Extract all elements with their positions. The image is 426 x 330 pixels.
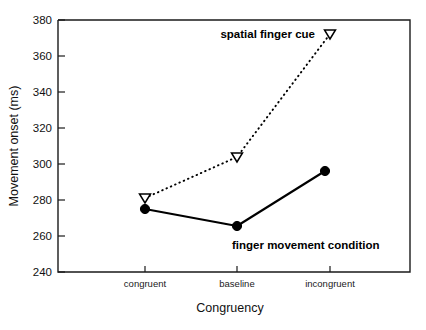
y-axis-tick-labels: 380 360 340 320 300 280 260 240 [33,14,52,278]
x-tick-label-baseline: baseline [219,278,254,289]
y-tick-label: 360 [33,50,52,62]
data-point-marker [320,166,329,175]
data-point-marker [232,153,243,162]
y-tick-label: 240 [33,266,52,278]
x-tick-label-congruent: congruent [124,278,167,289]
y-tick-label: 320 [33,122,52,134]
data-point-marker [232,221,241,230]
x-tick-label-incongruent: incongruent [305,278,355,289]
series-label-spatial-finger-cue: spatial finger cue [220,28,315,40]
y-tick-label: 380 [33,14,52,26]
y-tick-label: 280 [33,194,52,206]
series-finger-movement-condition [140,166,329,230]
y-tick-label: 340 [33,86,52,98]
y-tick-label: 260 [33,230,52,242]
plot-frame [58,20,410,272]
x-axis-ticks [145,266,330,272]
y-axis-title: Movement onset (ms) [7,86,21,207]
series-label-finger-movement-condition: finger movement condition [232,239,380,251]
chart-figure: 380 360 340 320 300 280 260 240 congruen… [0,0,426,330]
series-spatial-finger-cue [140,30,336,203]
x-axis-tick-labels: congruent baseline incongruent [124,278,355,289]
x-axis-title: Congruency [196,301,264,315]
line-chart: 380 360 340 320 300 280 260 240 congruen… [0,0,426,330]
y-tick-label: 300 [33,158,52,170]
data-point-marker [140,204,149,213]
data-point-marker [140,194,151,203]
y-axis-ticks [58,20,65,272]
